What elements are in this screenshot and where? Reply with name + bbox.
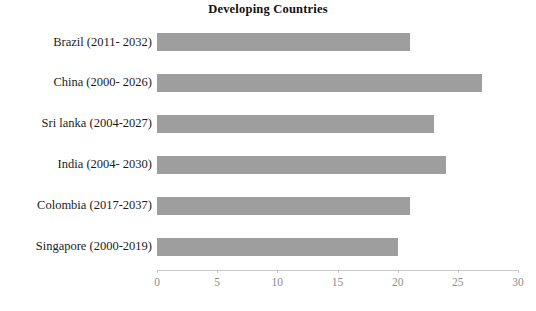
x-axis-tick-label-4: 20	[378, 276, 418, 288]
bar-chart: Developing Countries Brazil (2011- 2032)…	[0, 0, 536, 311]
x-axis-tick-label-5: 25	[438, 276, 478, 288]
x-axis-tick-label-2: 10	[257, 276, 297, 288]
y-axis-label-2: Sri lanka (2004-2027)	[0, 116, 152, 130]
x-axis-tick-label-6: 30	[498, 276, 536, 288]
y-axis-label-0: Brazil (2011- 2032)	[0, 35, 152, 49]
y-axis-label-3: India (2004- 2030)	[0, 157, 152, 171]
x-axis-tick-4	[398, 270, 399, 273]
bar-0[interactable]	[157, 33, 410, 51]
bar-2[interactable]	[157, 115, 434, 133]
y-axis-label-1: China (2000- 2026)	[0, 75, 152, 89]
bar-5[interactable]	[157, 238, 398, 256]
x-axis-tick-label-3: 15	[318, 276, 358, 288]
x-axis-tick-0	[157, 270, 158, 273]
x-axis-tick-5	[458, 270, 459, 273]
x-axis-tick-label-0: 0	[137, 276, 177, 288]
x-axis-tick-2	[277, 270, 278, 273]
y-axis-label-5: Singapore (2000-2019)	[0, 239, 152, 253]
plot-area	[157, 34, 518, 270]
y-axis-label-4: Colombia (2017-2037)	[0, 198, 152, 212]
bar-4[interactable]	[157, 197, 410, 215]
y-axis-category-labels: Brazil (2011- 2032) China (2000- 2026) S…	[0, 34, 152, 270]
x-axis-tick-label-1: 5	[197, 276, 237, 288]
chart-title: Developing Countries	[0, 2, 536, 17]
bar-1[interactable]	[157, 74, 482, 92]
x-axis-tick-3	[338, 270, 339, 273]
x-axis-tick-1	[217, 270, 218, 273]
bar-3[interactable]	[157, 156, 446, 174]
x-axis-tick-6	[518, 270, 519, 273]
